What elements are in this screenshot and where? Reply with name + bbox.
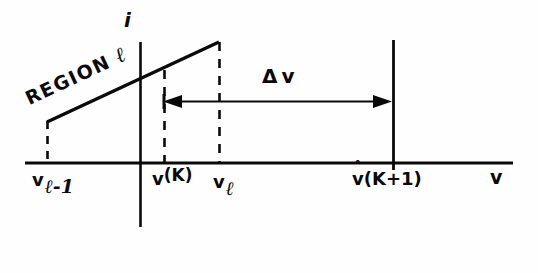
delta-symbol: Δ — [262, 64, 281, 88]
tick-label-v-l-minus-1: vℓ-1 — [32, 170, 73, 189]
tick-subscript: ℓ-1 — [45, 175, 74, 197]
v-hat-group: ˆv — [352, 170, 364, 188]
delta-v-annotation: Δv — [262, 66, 299, 86]
tick-subscript: ℓ — [226, 177, 234, 199]
tick-base-v: v — [32, 169, 44, 190]
tick-suffix: (K+1) — [364, 168, 422, 189]
tick-label-v-sub-l: vℓ — [213, 172, 233, 191]
tick-label-v-sup-K: v(K) — [152, 170, 192, 188]
tick-label-v-hat-K-plus-1: ˆv(K+1) — [352, 170, 422, 188]
delta-variable: v — [281, 64, 298, 88]
iv-characteristic-diagram: i v Δv REGION ℓ vℓ-1 v(K) vℓ ˆv(K+1) — [0, 0, 538, 273]
delta-v-arrowhead-right — [373, 95, 392, 108]
delta-v-arrowhead-left — [163, 95, 182, 108]
circumflex-accent: ˆ — [352, 161, 364, 176]
diagram-canvas — [0, 0, 538, 273]
tick-base-v: v — [213, 171, 225, 192]
horizontal-axis-label: v — [490, 168, 502, 187]
vertical-axis-label: i — [124, 10, 131, 30]
tick-base-v: v — [152, 168, 164, 189]
tick-superscript: (K) — [164, 165, 193, 185]
